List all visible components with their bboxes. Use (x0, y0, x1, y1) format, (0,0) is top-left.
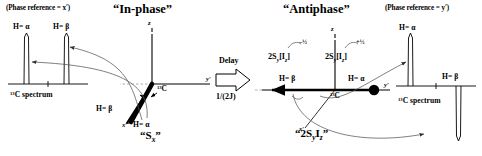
right-state-name: “2S (295, 127, 312, 139)
operator-coefficient-plus-half: +½ (356, 39, 364, 45)
left-axis-y-label: y′ (206, 76, 211, 83)
left-magnetization-vectors (127, 84, 157, 123)
in-phase-title: “In-phase” (113, 3, 172, 16)
left-state-name: “S (140, 129, 152, 141)
right-vector-alpha-label: H= α (348, 75, 364, 83)
product-operator-beta-pre: 2S (268, 52, 277, 61)
left-vector-axes (120, 28, 210, 124)
delay-block-arrow (216, 69, 250, 91)
left-state-label: “Sx” (140, 130, 161, 144)
delay-label: Delay (219, 57, 239, 65)
right-axis-y-label: y′ (384, 82, 389, 89)
product-operator-alpha: 2Sy[Iz] (325, 53, 347, 63)
product-operator-alpha-post: ] (344, 52, 347, 61)
left-carbon-text: C (162, 84, 167, 93)
product-operator-alpha-pre: 2S (325, 52, 334, 61)
left-spectrum-caption: 13C spectrum (10, 91, 52, 99)
left-carbon-label: 13C (157, 85, 167, 92)
left-spectrum-trace (8, 33, 88, 87)
operator-coefficient-minus-half: –½ (299, 39, 307, 45)
left-state-close: ” (155, 129, 161, 141)
product-operator-beta-post: ] (287, 52, 290, 61)
right-vector-axes (255, 34, 390, 128)
antiphase-title: “Antiphase” (283, 3, 350, 16)
left-axis-x-label: x′ (122, 122, 127, 129)
right-state-close: ” (323, 127, 329, 139)
left-spectrum-peak-beta-label: H= β (53, 23, 69, 31)
right-spectrum-caption-text: C spectrum (403, 96, 441, 105)
right-spectrum-peak-alpha-label: H= α (399, 24, 415, 32)
left-axis-z-label: z (148, 20, 151, 27)
delay-value: 1/(2J) (216, 93, 236, 101)
right-carbon-text: C (335, 91, 340, 100)
right-spectrum-trace (396, 33, 476, 141)
left-correlation-arrows (32, 47, 147, 120)
left-phase-reference: (Phase reference = x′) (6, 5, 70, 12)
right-vector-beta-label: H= β (279, 75, 295, 83)
nmr-vector-figure: (Phase reference = x′) “In-phase” H= α H… (0, 0, 482, 156)
right-carbon-label: 13C (330, 92, 340, 99)
left-vector-alpha-label: H= α (133, 121, 149, 129)
left-spectrum-peak-alpha-label: H= α (13, 23, 29, 31)
right-spectrum-caption: 13C spectrum (398, 97, 440, 105)
left-vector-beta-label: H= β (96, 105, 112, 113)
right-axis-z-label: z (331, 26, 334, 33)
right-phase-reference: (Phase reference = y′) (385, 5, 449, 12)
left-spectrum-caption-text: C spectrum (15, 90, 53, 99)
right-spectrum-peak-beta-label: H= β (442, 73, 458, 81)
right-state-label: “2SyIz” (295, 128, 328, 142)
product-operator-beta: 2Sy[Iz] (268, 53, 290, 63)
